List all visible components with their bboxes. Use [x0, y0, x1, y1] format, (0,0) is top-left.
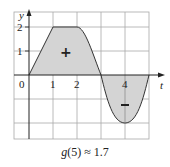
graph: y t 2 1 0 1 2 4 +: [0, 0, 170, 145]
origin-label: 0: [19, 78, 25, 90]
y-tick-2: 2: [17, 21, 23, 33]
positive-sign: +: [60, 44, 72, 60]
x-tick-1: 1: [50, 78, 56, 90]
x-tick-2: 2: [74, 78, 80, 90]
y-axis-label: y: [18, 9, 24, 21]
x-axis-label: t: [160, 79, 164, 91]
x-axis-arrow-icon: [158, 73, 165, 78]
y-axis-arrow-icon: [27, 9, 32, 16]
negative-sign: [121, 104, 129, 106]
y-tick-1: 1: [17, 45, 23, 57]
x-tick-4: 4: [122, 78, 128, 90]
caption-value: (5) ≈ 1.7: [67, 145, 109, 159]
caption: g(5) ≈ 1.7: [0, 145, 170, 160]
